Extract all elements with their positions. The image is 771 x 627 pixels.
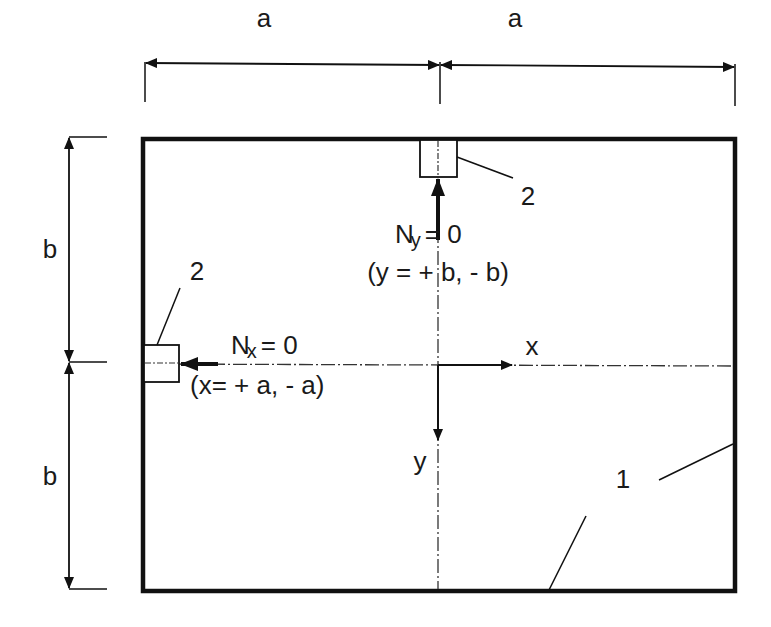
callout-label-support-left: 2	[190, 256, 204, 286]
left-dimension: b b	[43, 137, 107, 589]
callout-line-support-left	[157, 288, 180, 345]
ny-subscript: y	[411, 229, 421, 251]
nx-equals: = 0	[261, 330, 298, 360]
ny-label: Ny= 0	[395, 219, 462, 251]
y-axis-label: y	[414, 446, 427, 476]
dim-label-a-right: a	[508, 3, 523, 33]
dim-label-b-lower: b	[43, 461, 57, 491]
dim-label-b-upper: b	[43, 234, 57, 264]
x-axis-label: x	[526, 331, 539, 361]
nx-condition: (x= + a, - a)	[190, 370, 324, 400]
callout-line-plate-bottom	[549, 516, 586, 590]
top-dimension: a a	[145, 3, 735, 106]
ny-equals: = 0	[425, 219, 462, 249]
callout-line-support-top	[457, 157, 513, 178]
plate-diagram: a a b b x y 2 Ny= 0 (y = + b, - b) 2 Nx=…	[0, 0, 771, 627]
callout-line-plate-right	[659, 444, 733, 480]
dim-arrow-a-left	[146, 63, 439, 65]
nx-label: Nx= 0	[231, 330, 298, 362]
callout-label-support-top: 2	[521, 181, 535, 211]
ny-condition: (y = + b, - b)	[367, 257, 509, 287]
dim-arrow-a-right	[441, 65, 734, 67]
dim-label-a-left: a	[257, 3, 272, 33]
callout-label-plate: 1	[616, 464, 630, 494]
nx-subscript: x	[247, 340, 257, 362]
